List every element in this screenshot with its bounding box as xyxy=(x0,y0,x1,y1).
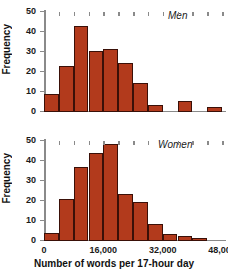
y-tick-label: 40 xyxy=(26,156,36,165)
y-tick-label: 20 xyxy=(26,67,36,76)
x-tick-label: 48,000 xyxy=(208,246,228,255)
y-tick: 40 xyxy=(40,160,44,162)
y-tick-label: 30 xyxy=(26,47,36,56)
histogram-bar xyxy=(118,63,133,112)
histogram-bar xyxy=(178,236,193,241)
x-tick xyxy=(118,141,120,145)
plot-area-women: 01020304050 016,00032,00048,000 xyxy=(44,141,222,241)
x-tick-label: 0 xyxy=(41,246,46,255)
y-tick-label: 40 xyxy=(26,27,36,36)
histogram-bar xyxy=(103,49,118,112)
x-tick-label: 32,000 xyxy=(149,246,177,255)
x-tick xyxy=(133,141,135,145)
y-tick-label: 0 xyxy=(31,236,36,245)
histogram-bar xyxy=(148,224,163,241)
y-tick: 10 xyxy=(40,91,44,93)
x-tick xyxy=(222,141,224,145)
histogram-bar xyxy=(74,167,89,241)
histogram-bar xyxy=(103,144,118,241)
x-tick-label: 16,000 xyxy=(90,246,118,255)
y-tick: 30 xyxy=(40,180,44,182)
x-tick xyxy=(178,141,180,145)
x-tick xyxy=(89,12,91,16)
x-tick xyxy=(148,141,150,145)
y-tick: 0 xyxy=(40,240,44,242)
y-tick: 20 xyxy=(40,71,44,73)
x-tick xyxy=(163,12,165,16)
y-axis-title-men: Frequency xyxy=(1,24,12,75)
histogram-bar xyxy=(148,105,163,112)
panel-men: Frequency Men 01020304050 xyxy=(0,2,228,122)
y-tick-label: 0 xyxy=(31,107,36,116)
histogram-bar xyxy=(59,66,74,112)
histogram-bar xyxy=(192,238,207,241)
histogram-bar xyxy=(44,94,59,112)
y-tick-label: 50 xyxy=(26,7,36,16)
histogram-bar xyxy=(89,51,104,112)
y-tick: 40 xyxy=(40,31,44,33)
x-tick xyxy=(207,12,209,16)
histogram-bar xyxy=(59,199,74,241)
y-tick-label: 10 xyxy=(26,87,36,96)
x-tick xyxy=(118,12,120,16)
y-tick: 0 xyxy=(40,111,44,113)
x-tick xyxy=(192,141,194,145)
x-tick xyxy=(207,141,209,145)
x-axis-title: Number of words per 17-hour day xyxy=(0,258,228,269)
histogram-bar xyxy=(74,26,89,112)
y-tick-label: 50 xyxy=(26,136,36,145)
y-axis-title-women: Frequency xyxy=(1,153,12,204)
histogram-bar xyxy=(89,153,104,241)
x-tick xyxy=(103,141,105,145)
x-tick xyxy=(59,141,61,145)
x-tick xyxy=(178,12,180,16)
y-tick: 10 xyxy=(40,220,44,222)
bars-men xyxy=(44,12,222,112)
x-tick xyxy=(133,12,135,16)
y-tick: 20 xyxy=(40,200,44,202)
x-tick xyxy=(222,12,224,16)
y-tick: 30 xyxy=(40,51,44,53)
x-tick xyxy=(163,141,165,145)
x-tick xyxy=(59,12,61,16)
y-tick-label: 20 xyxy=(26,196,36,205)
x-tick xyxy=(148,12,150,16)
histogram-bar xyxy=(133,83,148,112)
panel-women: Frequency Women 01020304050 016,00032,00… xyxy=(0,133,228,251)
y-tick-label: 10 xyxy=(26,216,36,225)
x-tick xyxy=(192,12,194,16)
histogram-bar xyxy=(133,202,148,241)
x-tick xyxy=(44,141,46,145)
histogram-bar xyxy=(207,107,222,112)
histogram-bar xyxy=(163,234,178,241)
x-tick xyxy=(103,12,105,16)
plot-area-men: 01020304050 xyxy=(44,12,222,112)
figure: Frequency Men 01020304050 Frequency Wome… xyxy=(0,0,228,275)
histogram-bar xyxy=(44,233,59,241)
histogram-bar xyxy=(118,194,133,241)
histogram-bar xyxy=(178,101,193,112)
bars-women xyxy=(44,141,222,241)
x-tick xyxy=(74,12,76,16)
x-tick xyxy=(89,141,91,145)
x-tick xyxy=(44,12,46,16)
y-tick-label: 30 xyxy=(26,176,36,185)
x-tick xyxy=(74,141,76,145)
